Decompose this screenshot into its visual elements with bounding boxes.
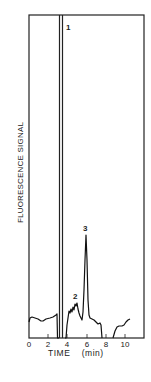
chromatogram-trace-3 (113, 319, 130, 338)
peak-label-1: 1 (66, 23, 71, 32)
svg-text:8: 8 (104, 340, 109, 349)
svg-text:10: 10 (121, 340, 130, 349)
svg-text:0: 0 (27, 340, 32, 349)
peak-label-2: 2 (73, 292, 78, 301)
y-axis-label: FLUORESCENCE SIGNAL (16, 93, 25, 253)
chromatogram-trace (29, 314, 59, 338)
plot-frame (29, 15, 144, 338)
chromatogram-trace-2 (65, 235, 102, 338)
peak-label-3: 3 (83, 224, 88, 233)
x-axis-label: TIME (min) (48, 348, 104, 358)
